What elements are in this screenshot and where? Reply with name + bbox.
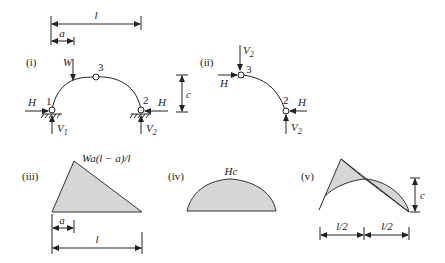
left-support-hinge-icon — [49, 107, 55, 113]
span-label: l — [94, 9, 97, 21]
right-support-hinge-icon — [138, 107, 144, 113]
left-h-label: H — [27, 96, 37, 108]
arch-diagram: l a (i) W 3 1 H V1 — [0, 0, 445, 263]
panel-ii: (ii) V2 3 H 2 H V2 — [200, 44, 307, 136]
support-hinge-icon — [283, 108, 289, 114]
panel-iii: (iii) Wa(l − a)/l a l — [22, 152, 142, 254]
peak-label: Hc — [224, 165, 238, 177]
left-v-label: V1 — [57, 122, 68, 137]
panel-i: (i) W 3 1 H V1 — [25, 56, 191, 137]
right-h-label: H — [297, 96, 307, 108]
left-half-label: l/2 — [336, 220, 348, 232]
rise-dimension: c — [176, 75, 191, 112]
right-support-label: 2 — [143, 94, 149, 106]
offset-label: a — [59, 27, 65, 39]
load-label: W — [63, 56, 73, 68]
left-support-label: 1 — [46, 95, 52, 107]
half-arch-curve — [242, 75, 285, 110]
right-h-label: H — [157, 96, 167, 108]
load-offset-dimension: a — [52, 27, 74, 45]
bm-left-region — [325, 159, 365, 196]
offset-label: a — [59, 214, 65, 226]
crown-label: 3 — [98, 61, 104, 73]
crown-hinge-icon — [238, 72, 244, 78]
right-v-label: V2 — [146, 122, 157, 137]
span-label: l — [95, 233, 98, 245]
top-h-label: H — [219, 77, 229, 89]
panel-v: (v) c l/2 l/2 — [301, 159, 425, 240]
rise-label: c — [420, 189, 425, 201]
panel-iv: (iv) Hc — [168, 165, 276, 211]
bm-arch-shape — [187, 179, 276, 211]
right-half-label: l/2 — [381, 220, 393, 232]
support-label: 2 — [283, 94, 289, 106]
crown-hinge-icon — [93, 74, 99, 80]
panel-iii-label: (iii) — [22, 170, 39, 183]
panel-v-label: (v) — [301, 170, 314, 183]
crown-label: 3 — [246, 63, 252, 75]
peak-label: Wa(l − a)/l — [82, 152, 131, 165]
panel-iv-label: (iv) — [168, 170, 184, 183]
bottom-v-label: V2 — [291, 121, 302, 136]
rise-label: c — [186, 88, 191, 100]
panel-i-label: (i) — [26, 56, 37, 69]
arch-curve — [52, 77, 141, 109]
panel-ii-label: (ii) — [200, 56, 214, 69]
top-v-label: V2 — [243, 44, 254, 59]
bm-triangle — [52, 161, 142, 212]
